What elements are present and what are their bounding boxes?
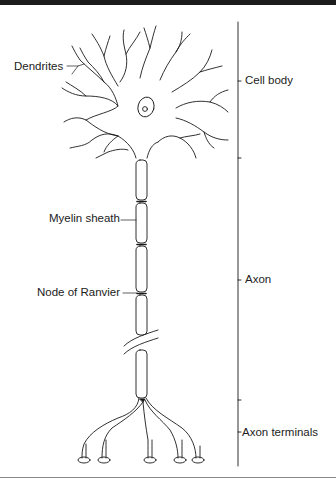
label-node-of-ranvier: Node of Ranvier xyxy=(37,286,120,299)
bottom-divider xyxy=(0,477,336,478)
leader-lines xyxy=(67,64,137,293)
cell-body-and-dendrites xyxy=(62,26,228,158)
label-dendrites: Dendrites xyxy=(14,60,63,73)
label-myelin-sheath: Myelin sheath xyxy=(49,212,120,225)
axon-terminals xyxy=(78,398,204,463)
label-cell-body: Cell body xyxy=(245,74,293,87)
axon-myelin-segments xyxy=(136,160,147,398)
region-bracket xyxy=(238,22,241,466)
label-axon-terminals: Axon terminals xyxy=(242,426,318,439)
label-axon: Axon xyxy=(245,273,271,286)
nucleolus xyxy=(143,107,148,112)
